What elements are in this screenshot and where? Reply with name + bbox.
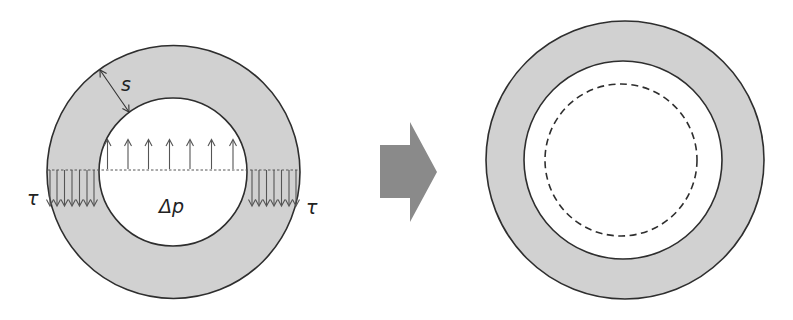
label-wall-thickness: s: [121, 73, 131, 95]
label-shear-left: τ: [27, 187, 39, 209]
transition-arrow-icon: [380, 122, 437, 222]
label-shear-right: τ: [306, 196, 318, 218]
pipe-pressure-diagram: s τ τ Δp: [0, 0, 793, 320]
right-inner-bore: [524, 61, 722, 259]
label-pressure: Δp: [157, 195, 184, 217]
left-inner-bore: [99, 98, 247, 246]
right-pipe-section: [486, 21, 764, 299]
left-pipe-section: s τ τ Δp: [27, 46, 318, 299]
